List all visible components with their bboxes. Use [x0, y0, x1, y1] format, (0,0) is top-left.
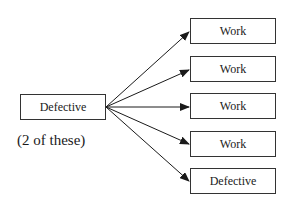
arrow-to-target-4 — [106, 107, 189, 144]
target-label: Work — [220, 62, 246, 77]
source-label: Defective — [40, 100, 87, 115]
arrow-to-target-1 — [106, 32, 189, 107]
arrow-to-target-5 — [106, 107, 189, 181]
target-box-1: Work — [190, 18, 276, 44]
target-box-4: Work — [190, 131, 276, 157]
target-label: Work — [220, 99, 246, 114]
target-label: Work — [220, 137, 246, 152]
source-box: Defective — [20, 94, 106, 120]
target-label: Defective — [210, 174, 257, 189]
arrow-to-target-2 — [106, 70, 189, 107]
target-label: Work — [220, 24, 246, 39]
source-note: (2 of these) — [17, 132, 85, 149]
target-box-3: Work — [190, 93, 276, 119]
target-box-2: Work — [190, 56, 276, 82]
target-box-5: Defective — [190, 168, 276, 194]
